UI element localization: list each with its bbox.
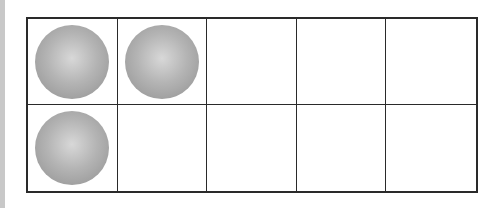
- frame-cell: [207, 19, 297, 105]
- frame-cell: [28, 105, 118, 191]
- frame-cell: [207, 105, 297, 191]
- counter-circle-icon: [125, 25, 199, 99]
- frame-cell: [386, 105, 476, 191]
- frame-cell: [386, 19, 476, 105]
- ten-frame: [26, 17, 478, 193]
- frame-cell: [28, 19, 118, 105]
- frame-cell: [297, 19, 387, 105]
- frame-cell: [297, 105, 387, 191]
- frame-cell: [118, 19, 208, 105]
- counter-circle-icon: [35, 111, 109, 185]
- counter-circle-icon: [35, 25, 109, 99]
- left-edge-bar: [0, 0, 5, 208]
- frame-cell: [118, 105, 208, 191]
